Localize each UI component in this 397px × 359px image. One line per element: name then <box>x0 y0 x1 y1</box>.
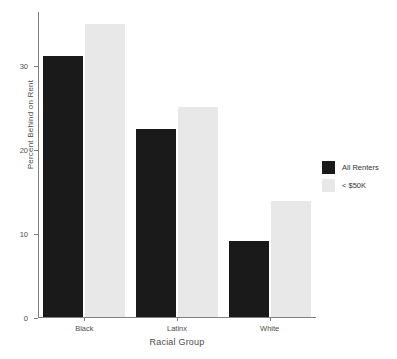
legend-label: All Renters <box>342 163 379 172</box>
bar <box>178 107 218 318</box>
bar <box>229 241 269 318</box>
bar <box>136 129 176 318</box>
bar <box>271 201 311 318</box>
x-axis-tick-label: White <box>235 324 305 333</box>
x-axis-tick <box>270 317 271 321</box>
x-axis-title: Racial Group <box>38 337 316 347</box>
x-axis-tick-label: Latinx <box>142 324 212 333</box>
y-axis-tick-label: 30 <box>4 62 28 71</box>
legend-label: < $50K <box>342 181 366 190</box>
x-axis-tick <box>84 317 85 321</box>
bar-chart: Percent Behind on Rent 0102030 BlackLati… <box>0 0 397 359</box>
y-axis-tick-label: 10 <box>4 230 28 239</box>
bar <box>43 56 83 318</box>
y-axis-tick <box>34 318 38 319</box>
y-axis-tick-label: 0 <box>4 314 28 323</box>
x-axis-tick <box>177 317 178 321</box>
plot-area <box>38 12 316 318</box>
legend-swatch <box>322 161 335 174</box>
legend-item[interactable]: All Renters <box>322 158 379 176</box>
y-axis-tick-label: 20 <box>4 146 28 155</box>
legend-item[interactable]: < $50K <box>322 176 379 194</box>
x-axis-tick-label: Black <box>49 324 119 333</box>
chart-legend: All Renters< $50K <box>322 158 379 194</box>
bar <box>85 24 125 318</box>
legend-swatch <box>322 179 335 192</box>
